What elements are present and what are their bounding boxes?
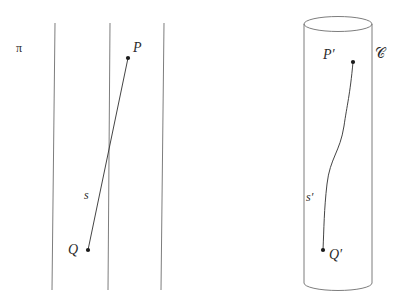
point-p-prime-label: P′ [323, 48, 335, 62]
cylinder-top-ellipse [304, 17, 372, 32]
cylinder-surface-label: 𝒞 [375, 46, 385, 60]
point-q-dot [86, 248, 90, 252]
geodesic-curve-group [321, 60, 355, 252]
geodesic-segment-group [86, 56, 130, 252]
plane-ruling-line-3 [161, 23, 164, 290]
figure-canvas: π P Q s 𝒞 P′ Q′ s′ [0, 0, 399, 305]
point-p-label: P [133, 41, 142, 55]
plane-ruling-line-2 [108, 23, 110, 290]
curve-s-prime-label: s′ [306, 191, 313, 203]
point-q-label: Q [68, 243, 78, 257]
plane-ruling-line-1 [52, 23, 55, 290]
curve-s-prime-path [323, 62, 353, 250]
segment-s-label: s [84, 189, 89, 201]
point-q-prime-dot [321, 248, 325, 252]
cylinder-bottom-arc [304, 283, 372, 291]
point-p-prime-dot [351, 60, 355, 64]
plane-label: π [16, 42, 22, 54]
segment-s-line [88, 58, 128, 250]
point-p-dot [126, 56, 130, 60]
point-q-prime-label: Q′ [329, 248, 342, 262]
